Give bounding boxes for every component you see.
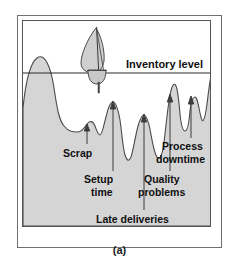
label-setup-line1: Setup <box>84 173 113 185</box>
label-quality-line1: Quality <box>144 173 180 185</box>
label-scrap: Scrap <box>63 147 92 159</box>
label-inventory-level: Inventory level <box>126 58 203 70</box>
figure-outer-frame: Inventory level Scrap Setup time Late de… <box>17 15 222 248</box>
inventory-level-diagram: Inventory level Scrap Setup time Late de… <box>18 16 221 247</box>
label-setup-line2: time <box>91 186 113 198</box>
keel-shape <box>98 82 100 93</box>
label-late-deliveries: Late deliveries <box>96 213 169 225</box>
figure-caption: (a) <box>18 244 221 256</box>
label-quality-line2: problems <box>138 186 185 198</box>
label-process-line1: Process <box>162 140 203 152</box>
label-process-line2: downtime <box>156 153 205 165</box>
figure-root: Inventory level Scrap Setup time Late de… <box>0 0 242 264</box>
hull-shape <box>88 70 106 84</box>
